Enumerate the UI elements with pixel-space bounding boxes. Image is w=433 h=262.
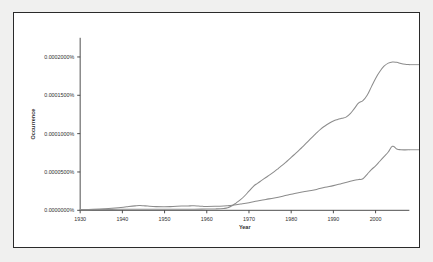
page-background: 0.0000000%0.0000500%0.0001000%0.0001500%…	[0, 0, 433, 262]
x-tick-label: 1950	[159, 216, 171, 222]
x-tick-label: 1930	[74, 216, 86, 222]
y-tick-label: 0.0000000%	[44, 207, 74, 213]
x-tick-label: 2000	[370, 216, 382, 222]
y-tick-labels: 0.0000000%0.0000500%0.0001000%0.0001500%…	[44, 54, 74, 213]
y-tick-label: 0.0001000%	[44, 131, 74, 137]
x-tick-label: 1940	[116, 216, 128, 222]
x-tick-label: 1960	[201, 216, 213, 222]
y-axis-title: Occurrence	[30, 109, 36, 140]
series-line-zombie	[80, 146, 409, 210]
x-axis-title: Year	[239, 224, 252, 230]
series-inline-labels: bullshitzombie	[409, 62, 419, 153]
x-tick-label: 1970	[243, 216, 255, 222]
ngram-line-chart: 0.0000000%0.0000500%0.0001000%0.0001500%…	[14, 13, 419, 247]
x-tick-label: 1980	[285, 216, 297, 222]
x-tick-label: 1990	[327, 216, 339, 222]
x-tick-labels: 19301940195019601970198019902000	[74, 216, 381, 222]
series-lines	[80, 62, 409, 210]
y-tick-label: 0.0001500%	[44, 92, 74, 98]
y-tick-label: 0.0000500%	[44, 169, 74, 175]
y-tick-label: 0.0002000%	[44, 54, 74, 60]
chart-frame: 0.0000000%0.0000500%0.0001000%0.0001500%…	[13, 12, 420, 248]
series-line-bullshit	[80, 62, 409, 210]
y-tick-marks	[77, 57, 80, 210]
